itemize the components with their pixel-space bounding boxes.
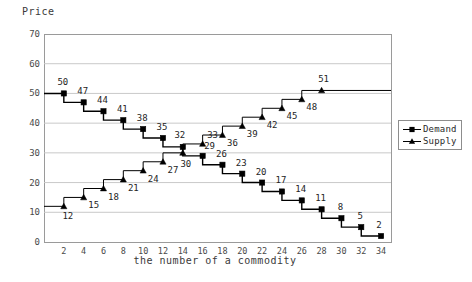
data-point-marker [61,91,66,96]
data-label: 12 [62,211,73,221]
legend-label: Supply [422,136,457,146]
data-label: 47 [77,86,88,96]
data-point-marker [220,162,225,167]
data-label: 35 [157,122,168,132]
data-label: 33 [207,130,218,140]
data-label: 23 [236,158,247,168]
legend-triangle-marker-icon [402,136,422,147]
data-label: 18 [108,192,119,202]
data-label: 27 [168,165,179,175]
data-label: 21 [128,183,139,193]
data-point-marker [299,198,304,203]
legend-square-marker-icon [402,124,422,135]
data-label: 39 [247,129,258,139]
data-label: 20 [256,167,267,177]
data-point-marker [339,216,344,221]
data-label: 44 [97,95,108,105]
data-point-marker [378,233,383,238]
data-point-marker [359,225,364,230]
data-point-marker [319,207,324,212]
data-label: 5 [358,211,363,221]
data-label: 15 [88,200,99,210]
data-label: 30 [180,159,191,169]
supply-demand-chart: Price 010203040506070 504744413835322926… [0,0,472,282]
data-label: 14 [295,184,306,194]
chart-legend: DemandSupply [398,120,462,150]
data-point-marker [279,189,284,194]
data-point-marker [260,180,265,185]
data-label: 24 [148,174,159,184]
legend-item-demand[interactable]: Demand [402,123,457,135]
data-label: 38 [137,113,148,123]
data-label: 32 [174,130,185,140]
data-label: 29 [204,141,215,151]
data-label: 50 [57,77,68,87]
series-line-demand [44,93,381,236]
data-label: 48 [306,102,317,112]
data-label: 36 [227,138,238,148]
x-axis-title: the number of a commodity [0,255,430,266]
data-point-marker [160,135,165,140]
data-label: 8 [338,202,343,212]
data-point-marker [141,126,146,131]
data-point-marker [81,100,86,105]
data-label: 17 [276,175,287,185]
data-label: 51 [318,74,329,84]
legend-label: Demand [422,124,457,134]
data-label: 45 [287,111,298,121]
data-point-marker [200,153,205,158]
data-label: 11 [315,193,326,203]
data-label: 41 [117,104,128,114]
legend-item-supply[interactable]: Supply [402,135,457,147]
data-label: 2 [376,220,381,230]
data-label: 42 [267,120,278,130]
data-point-marker [101,109,106,114]
data-point-marker [121,118,126,123]
data-point-marker [240,171,245,176]
data-label: 26 [216,149,227,159]
